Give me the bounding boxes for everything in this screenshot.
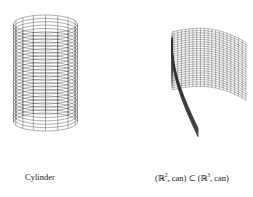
sheet-row-line: [172, 43, 246, 135]
sheet-mesh: [172, 28, 246, 137]
sheet-row-line: [172, 39, 246, 131]
caption-mid: , can) ⊂ (: [167, 173, 200, 183]
caption-sheet: (ℝ2, can) ⊂ (ℝ3, can): [155, 172, 229, 183]
sheet-row-line: [172, 44, 246, 137]
cylinder-mesh: [14, 15, 78, 131]
sheet-row-line: [172, 40, 246, 132]
sheet-row-line: [172, 42, 246, 134]
caption-r-symbol: ℝ: [158, 173, 165, 183]
sheet-row-line: [172, 44, 246, 137]
sheet-row-line: [172, 40, 246, 132]
caption-cylinder: Cylinder: [25, 172, 55, 182]
figure-canvas: [0, 0, 253, 197]
caption-close: , can): [210, 173, 229, 183]
sheet-row-line: [172, 41, 246, 133]
